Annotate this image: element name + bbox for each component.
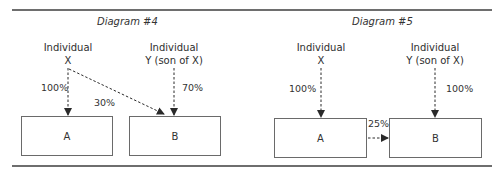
arrows-layer (0, 0, 504, 173)
diagram-4-arrow-x-to-b (69, 69, 164, 114)
